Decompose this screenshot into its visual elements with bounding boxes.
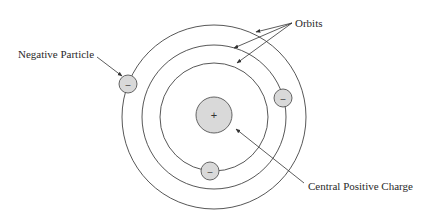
nucleus: +	[196, 97, 232, 133]
svg-text:–: –	[280, 94, 285, 104]
arrow-negative-particle	[97, 57, 122, 76]
label-orbits: Orbits	[295, 17, 323, 29]
plus-sign: +	[211, 109, 217, 121]
atom-diagram: + – – – Orbits Negative Particle Central…	[0, 0, 428, 221]
electron-outer: –	[119, 75, 137, 93]
label-central-positive-charge: Central Positive Charge	[308, 180, 413, 192]
label-negative-particle: Negative Particle	[18, 48, 94, 60]
arrow-central-positive-charge	[236, 129, 304, 183]
svg-text:–: –	[207, 167, 212, 177]
electron-middle: –	[274, 89, 292, 107]
svg-text:–: –	[125, 80, 130, 90]
electron-inner: –	[201, 162, 219, 180]
